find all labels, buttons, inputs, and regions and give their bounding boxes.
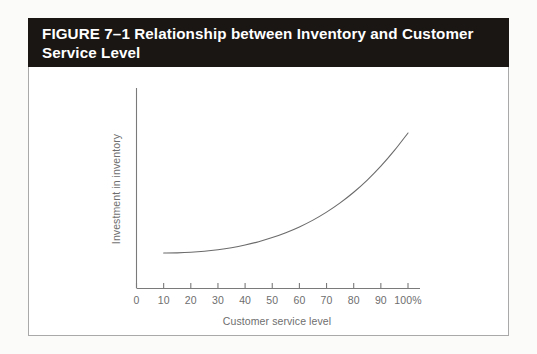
figure-plot-frame (28, 67, 509, 336)
figure-caption-bar: FIGURE 7–1 Relationship between Inventor… (28, 18, 509, 67)
figure-caption-text: FIGURE 7–1 Relationship between Inventor… (42, 24, 495, 62)
figure-container: FIGURE 7–1 Relationship between Inventor… (0, 0, 537, 354)
